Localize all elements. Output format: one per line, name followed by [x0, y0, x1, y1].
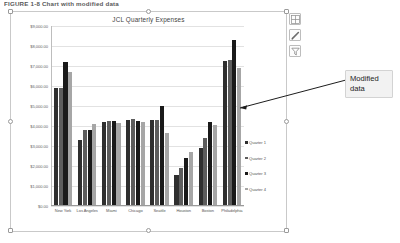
- legend-label: Quarter 2: [249, 156, 266, 161]
- y-axis-tick-label: $8,000.00: [30, 44, 48, 49]
- legend-swatch: [245, 141, 248, 144]
- bar-group[interactable]: [172, 26, 196, 206]
- callout-line-1: Modified: [350, 74, 389, 84]
- bar[interactable]: [208, 122, 212, 206]
- bar-group[interactable]: [123, 26, 147, 206]
- bar-group[interactable]: [75, 26, 99, 206]
- bar[interactable]: [213, 125, 217, 206]
- bars-layer[interactable]: [51, 26, 244, 206]
- selection-handle-bottom-left[interactable]: [8, 228, 13, 233]
- bar[interactable]: [112, 121, 116, 206]
- x-axis-tick-label: Philadelphia: [220, 208, 244, 213]
- bar[interactable]: [54, 88, 58, 206]
- legend-swatch: [245, 157, 248, 160]
- bar[interactable]: [223, 61, 227, 206]
- chart-styles-button[interactable]: [289, 29, 301, 41]
- legend-label: Quarter 3: [249, 171, 266, 176]
- bar[interactable]: [237, 68, 241, 206]
- bar[interactable]: [131, 119, 135, 206]
- bar[interactable]: [189, 152, 193, 206]
- y-axis-tick-label: $0.00: [38, 204, 48, 209]
- y-axis-tick-label: $3,000.00: [30, 144, 48, 149]
- y-axis-tick-label: $6,000.00: [30, 84, 48, 89]
- bar[interactable]: [83, 130, 87, 206]
- chart-filters-button[interactable]: [289, 45, 301, 57]
- bar[interactable]: [126, 120, 130, 206]
- y-axis-tick-label: $5,000.00: [30, 104, 48, 109]
- bar[interactable]: [184, 158, 188, 206]
- legend-item[interactable]: Quarter 4: [245, 187, 283, 192]
- chart-elements-button[interactable]: [289, 13, 301, 25]
- bar[interactable]: [228, 60, 232, 206]
- selection-handle-middle-right[interactable]: [284, 119, 289, 124]
- y-axis-tick-label: $1,000.00: [30, 184, 48, 189]
- brush-icon: [291, 31, 300, 40]
- legend-swatch: [245, 188, 248, 191]
- x-axis-labels: New YorkLos AngelesMiamiChicagoSeattleHo…: [51, 208, 244, 213]
- y-axis-labels: $9,000.00$8,000.00$7,000.00$6,000.00$5,0…: [11, 26, 51, 206]
- bar[interactable]: [160, 106, 164, 206]
- bar[interactable]: [174, 175, 178, 206]
- bar-group[interactable]: [220, 26, 244, 206]
- bar[interactable]: [165, 133, 169, 206]
- chart-elements-icon: [291, 15, 300, 24]
- bar[interactable]: [203, 138, 207, 206]
- bar[interactable]: [92, 124, 96, 206]
- x-axis-tick-label: New York: [51, 208, 75, 213]
- bar[interactable]: [59, 88, 63, 206]
- x-axis-line: [51, 205, 244, 206]
- bar[interactable]: [232, 40, 236, 206]
- bar[interactable]: [88, 130, 92, 206]
- y-axis-tick-label: $9,000.00: [30, 24, 48, 29]
- y-axis-tick-label: $7,000.00: [30, 64, 48, 69]
- x-axis-tick-label: Houston: [172, 208, 196, 213]
- bar[interactable]: [116, 123, 120, 206]
- chart-object[interactable]: JCL Quarterly Expenses $9,000.00$8,000.0…: [10, 11, 287, 232]
- y-axis-tick-label: $4,000.00: [30, 124, 48, 129]
- bar[interactable]: [107, 121, 111, 206]
- bar[interactable]: [68, 72, 72, 206]
- bar[interactable]: [63, 62, 67, 206]
- bar[interactable]: [141, 122, 145, 206]
- bar[interactable]: [78, 140, 82, 206]
- bar[interactable]: [179, 168, 183, 206]
- x-axis-tick-label: Los Angeles: [75, 208, 99, 213]
- x-axis-tick-label: Miami: [99, 208, 123, 213]
- selection-handle-bottom-right[interactable]: [284, 228, 289, 233]
- bar-group[interactable]: [99, 26, 123, 206]
- legend-item[interactable]: Quarter 3: [245, 171, 283, 176]
- x-axis-tick-label: Chicago: [123, 208, 147, 213]
- bar[interactable]: [199, 148, 203, 206]
- bar[interactable]: [150, 120, 154, 206]
- selection-handle-middle-left[interactable]: [8, 119, 13, 124]
- legend-label: Quarter 4: [249, 187, 266, 192]
- selection-handle-top-center[interactable]: [146, 9, 151, 14]
- bar[interactable]: [155, 120, 159, 206]
- callout-modified-data: Modified data: [345, 70, 393, 98]
- x-axis-tick-label: Seattle: [148, 208, 172, 213]
- chart-legend[interactable]: Quarter 1Quarter 2Quarter 3Quarter 4: [245, 140, 283, 202]
- bar-group[interactable]: [196, 26, 220, 206]
- selection-handle-top-left[interactable]: [8, 9, 13, 14]
- chart-title[interactable]: JCL Quarterly Expenses: [11, 16, 286, 23]
- selection-handle-top-right[interactable]: [284, 9, 289, 14]
- figure-caption: FIGURE 1-8 Chart with modified data: [4, 0, 119, 7]
- bar-group[interactable]: [148, 26, 172, 206]
- callout-line-2: data: [350, 84, 389, 94]
- bar[interactable]: [102, 122, 106, 206]
- x-axis-tick-label: Boston: [196, 208, 220, 213]
- legend-item[interactable]: Quarter 1: [245, 140, 283, 145]
- chart-tools[interactable]: [289, 13, 302, 61]
- plot-area[interactable]: [51, 26, 244, 206]
- legend-label: Quarter 1: [249, 140, 266, 145]
- selection-handle-bottom-center[interactable]: [146, 228, 151, 233]
- bar[interactable]: [136, 121, 140, 206]
- bar-group[interactable]: [51, 26, 75, 206]
- y-axis-tick-label: $2,000.00: [30, 164, 48, 169]
- funnel-icon: [291, 47, 300, 56]
- gridline: [51, 206, 244, 207]
- legend-item[interactable]: Quarter 2: [245, 156, 283, 161]
- legend-swatch: [245, 172, 248, 175]
